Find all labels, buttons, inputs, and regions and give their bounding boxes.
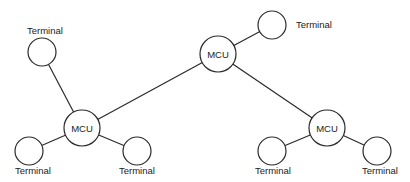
terminal-label: Terminal [296,19,332,30]
diagram-svg: MCUMCUMCUTerminalTerminalTerminalTermina… [0,0,410,182]
terminal-label: Terminal [27,25,63,36]
terminal-label: Terminal [255,165,291,176]
mcu-label: MCU [207,49,229,60]
terminal-circle [28,38,56,66]
terminal-node-t_top_left: Terminal [27,25,63,66]
mcu-node-mcu_left: MCU [64,110,100,146]
edge-mcu_top-mcu_right [218,54,327,128]
terminal-label: Terminal [362,165,398,176]
terminal-circle [258,11,286,39]
terminal-node-t_br_right: Terminal [362,137,398,176]
terminal-node-t_br_left: Terminal [255,137,291,176]
terminal-circle [258,137,286,165]
terminal-node-t_top_right: Terminal [258,11,332,39]
edge-mcu_top-mcu_left [82,54,218,128]
terminal-circle [363,137,391,165]
terminal-label: Terminal [119,165,155,176]
nodes-layer: MCUMCUMCUTerminalTerminalTerminalTermina… [15,11,398,176]
terminal-label: Terminal [15,165,51,176]
terminal-node-t_bl_left: Terminal [15,137,51,176]
network-diagram: MCUMCUMCUTerminalTerminalTerminalTermina… [0,0,410,182]
mcu-node-mcu_right: MCU [309,110,345,146]
mcu-label: MCU [316,123,338,134]
mcu-label: MCU [71,123,93,134]
terminal-node-t_bl_right: Terminal [119,137,155,176]
terminal-circle [123,137,151,165]
mcu-node-mcu_top: MCU [200,36,236,72]
terminal-circle [15,137,43,165]
